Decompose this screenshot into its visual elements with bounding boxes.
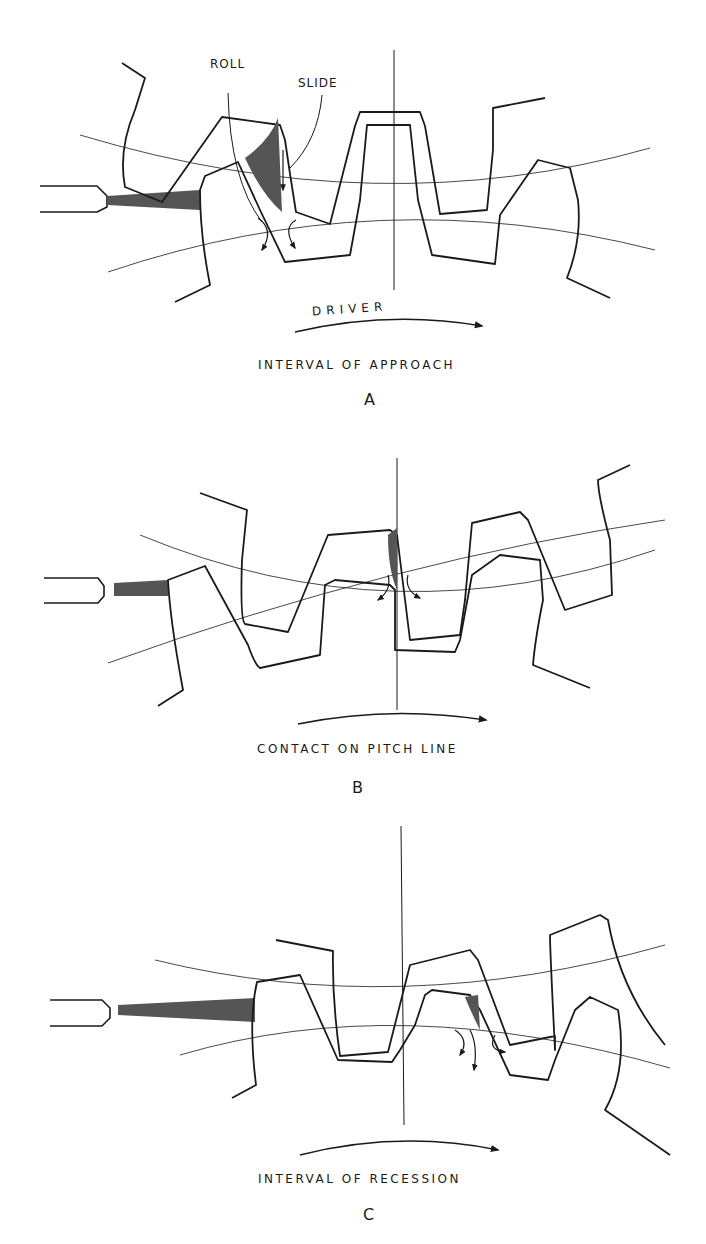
- panel-c-drawing: [50, 826, 670, 1155]
- panel-b-caption: CONTACT ON PITCH LINE: [257, 742, 458, 756]
- panel-c-caption: INTERVAL OF RECESSION: [258, 1172, 461, 1186]
- driver-direction-arrow: [295, 319, 482, 332]
- gear-mesh-diagram: [0, 0, 706, 1244]
- tool-tip-shade: [107, 190, 200, 210]
- panel-b-letter: B: [352, 778, 363, 797]
- roll-callout-label: ROLL: [210, 57, 245, 71]
- panel-b-drawing: [44, 458, 665, 724]
- contact-shade: [245, 118, 282, 212]
- panel-c-letter: C: [363, 1205, 374, 1224]
- panel-a-drawing: [40, 50, 655, 332]
- panel-a-caption: INTERVAL OF APPROACH: [258, 358, 455, 372]
- slide-callout-label: SLIDE: [298, 76, 338, 90]
- panel-a-letter: A: [364, 390, 375, 409]
